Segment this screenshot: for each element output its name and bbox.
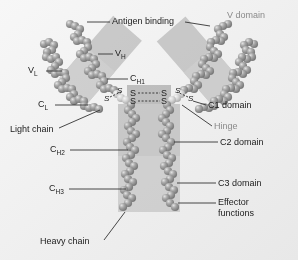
label-vl: VL — [28, 65, 38, 77]
label-disulfide-s-4: S — [161, 96, 167, 106]
label-light-chain: Light chain — [10, 124, 54, 134]
label-disulfide-s-6: S — [117, 86, 122, 96]
label-c2-domain: C2 domain — [220, 137, 264, 147]
label-disulfide-s-5: S — [104, 94, 109, 104]
label-disulfide-s-3: S — [130, 96, 136, 106]
label-antigen-binding: Antigen binding — [112, 16, 174, 26]
label-ch2: CH2 — [50, 144, 65, 156]
label-vh: VH — [115, 48, 126, 60]
label-c1-domain: C1 domain — [208, 100, 252, 110]
label-effector-functions-line2: functions — [218, 208, 254, 218]
label-ch1: CH1 — [130, 73, 145, 85]
label-heavy-chain: Heavy chain — [40, 236, 90, 246]
label-c3-domain: C3 domain — [218, 178, 262, 188]
label-disulfide-s-8: S — [175, 86, 180, 96]
label-v-domain: V domain — [227, 10, 265, 20]
label-hinge: Hinge — [214, 121, 238, 131]
label-ch3: CH3 — [49, 183, 64, 195]
label-effector-functions-line1: Effector — [218, 197, 249, 207]
antibody-structure-figure: Antigen binding V domain VH VL CH1 CL C1… — [0, 0, 298, 260]
label-disulfide-s-7: S — [188, 94, 193, 104]
label-cl: CL — [38, 99, 48, 111]
